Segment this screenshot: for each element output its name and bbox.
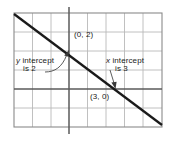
y-intercept-callout: y intercept is 2 [16,57,54,74]
point-label-y-intercept: (0, 2) [74,31,93,39]
x-intercept-callout-line2: is 3 [115,65,144,73]
y-intercept-callout-line2: is 2 [23,65,54,73]
x-intercept-callout: x intercept is 3 [106,57,144,74]
graph-figure: (0, 2) (3, 0) y intercept is 2 x interce… [0,0,174,142]
point-label-x-intercept: (3, 0) [90,93,109,101]
